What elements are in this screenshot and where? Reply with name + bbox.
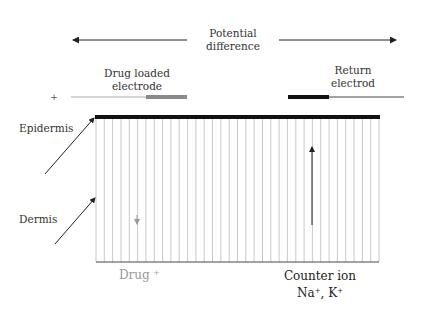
drug-label: Drug + [119,267,159,282]
tissue-lines [96,117,379,262]
counter-ion-label: Counter ion Na+, K+ [270,269,370,301]
drug-electrode [71,95,187,99]
drug-electrode-line1: Drug loaded [96,67,178,80]
potential-line2: difference [190,40,276,53]
drug-electrode-label: Drug loaded electrode [96,67,178,93]
drug-electrode-line2: electrode [96,80,178,93]
counter-ion-line2: Na+, K+ [270,284,370,301]
potential-difference-label: Potential difference [190,27,276,53]
positive-terminal-sign: + [50,91,58,104]
dermis-label: Dermis [19,213,57,226]
drug-electrode-pad [146,95,187,99]
epidermis-label: Epidermis [19,122,73,135]
return-electrode-line2: electrod [318,77,388,90]
counter-ion-line1: Counter ion [270,269,370,284]
return-electrode-line1: Return [318,64,388,77]
potential-line1: Potential [190,27,276,40]
return-electrode-label: Return electrod [318,64,388,90]
drug-name: Drug [119,268,150,282]
epidermis-bar [95,115,380,119]
return-electrode [288,95,404,99]
return-electrode-pad [288,95,329,99]
dermis-pointer-arrow [55,198,95,244]
drug-charge: + [154,269,160,277]
